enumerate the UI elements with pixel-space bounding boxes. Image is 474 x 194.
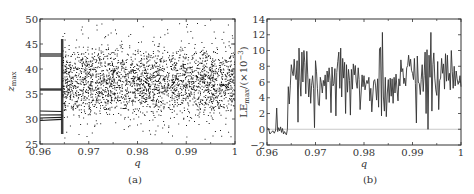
y-tick-label: 25: [25, 139, 38, 150]
scatter-plot-canvas: 0.960.970.980.991253035404550qzmax: [0, 0, 237, 194]
y-tick-label: 35: [25, 89, 38, 100]
x-tick-label: 0.99: [175, 146, 197, 157]
x-tick-label: 0.99: [401, 147, 423, 158]
y-tick-label: 8: [259, 61, 265, 72]
y-axis-label: zmax: [5, 71, 18, 92]
caption-a: (a): [115, 174, 155, 185]
y-tick-label: 2: [259, 108, 265, 119]
y-tick-label: 6: [259, 77, 265, 88]
scatter-points: [40, 23, 236, 140]
x-tick-label: 0.98: [126, 146, 148, 157]
line-plot-canvas: 0.960.970.980.991−202468101214qLEmax/(×1…: [237, 0, 474, 194]
periodic-branch: [40, 117, 62, 118]
y-tick-label: 30: [25, 114, 38, 125]
y-tick-label: 14: [252, 14, 265, 25]
y-tick-label: 45: [25, 39, 38, 50]
x-axis-label: q: [361, 158, 367, 169]
y-tick-label: 10: [252, 45, 265, 56]
x-tick-label: 0.97: [304, 147, 326, 158]
x-tick-label: 0.98: [353, 147, 375, 158]
x-axis-label: q: [134, 157, 140, 168]
caption-b: (b): [350, 174, 390, 185]
y-tick-label: 12: [252, 29, 265, 40]
x-tick-label: 0.97: [78, 146, 100, 157]
y-tick-label: 4: [259, 92, 265, 103]
periodic-branch: [40, 119, 62, 120]
y-tick-label: 50: [25, 14, 38, 25]
panel-a-scatter-plot: 0.960.970.980.991253035404550qzmax (a): [0, 0, 237, 194]
x-tick-label: 1: [458, 147, 464, 158]
le-max-line: [267, 32, 461, 134]
y-tick-label: 0: [259, 124, 265, 135]
y-tick-label: 40: [25, 64, 38, 75]
panel-b-line-plot: 0.960.970.980.991−202468101214qLEmax/(×1…: [237, 0, 474, 194]
scatter-dots: [62, 23, 236, 140]
y-tick-label: −2: [250, 140, 265, 151]
y-axis-label: LEmax/(×10−3): [237, 46, 251, 117]
